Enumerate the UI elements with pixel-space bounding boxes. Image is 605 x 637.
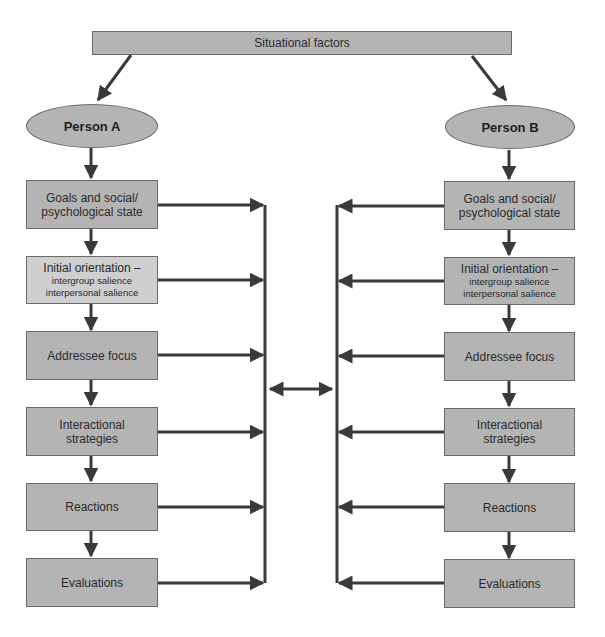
person-a-addressee-focus-box: Addressee focus [26, 331, 158, 380]
box-title: Addressee focus [47, 349, 136, 363]
person-a-goals-box: Goals and social/ psychological state [26, 180, 158, 229]
person-a-initial-orientation-box: Initial orientation – intergroup salienc… [26, 256, 158, 304]
person-b-reactions-box: Reactions [444, 483, 575, 532]
situational-factors-box: Situational factors [92, 31, 512, 55]
communication-accommodation-diagram: Situational factors Person A Goals and s… [0, 0, 605, 637]
situational-factors-label: Situational factors [254, 36, 349, 50]
box-subtitle-intergroup: intergroup salience [469, 276, 549, 288]
box-title: Evaluations [478, 577, 540, 591]
box-title-line2: strategies [66, 432, 118, 446]
person-b-evaluations-box: Evaluations [444, 559, 575, 608]
person-a-label: Person A [64, 119, 121, 134]
person-b-initial-orientation-box: Initial orientation – intergroup salienc… [444, 257, 575, 305]
box-title: Initial orientation – [43, 261, 140, 275]
box-subtitle-interpersonal: interpersonal salience [463, 288, 555, 300]
connector-arrows [0, 0, 605, 637]
box-subtitle-intergroup: intergroup salience [52, 275, 132, 287]
box-title: Initial orientation – [461, 262, 558, 276]
box-title: Interactional [477, 418, 542, 432]
box-title: Reactions [65, 500, 118, 514]
person-a-interactional-strategies-box: Interactional strategies [26, 407, 158, 456]
box-title: Goals and social/ [463, 192, 555, 206]
person-b-node: Person B [445, 105, 575, 149]
person-b-interactional-strategies-box: Interactional strategies [444, 408, 575, 456]
person-a-evaluations-box: Evaluations [26, 558, 158, 607]
box-title: Interactional [59, 418, 124, 432]
person-b-goals-box: Goals and social/ psychological state [444, 181, 575, 230]
box-title: Reactions [483, 501, 536, 515]
box-title: Goals and social/ [46, 191, 138, 205]
box-title-line2: strategies [483, 432, 535, 446]
person-b-label: Person B [481, 120, 538, 135]
box-title: Addressee focus [465, 350, 554, 364]
person-a-node: Person A [26, 104, 158, 148]
box-subtitle-interpersonal: interpersonal salience [46, 287, 138, 299]
person-b-addressee-focus-box: Addressee focus [444, 332, 575, 381]
box-title: Evaluations [61, 576, 123, 590]
person-a-reactions-box: Reactions [26, 483, 158, 531]
box-title-line2: psychological state [459, 206, 560, 220]
box-title-line2: psychological state [41, 205, 142, 219]
